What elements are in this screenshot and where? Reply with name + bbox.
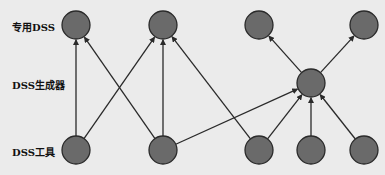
node-bot4: [297, 136, 325, 164]
node-top3: [245, 11, 273, 39]
edge-arrow: [176, 89, 298, 144]
nodes-group: [62, 11, 378, 164]
node-bot1: [62, 136, 90, 164]
label-specific-dss: 专用DSS: [12, 19, 55, 34]
edge-arrow: [269, 36, 302, 72]
edge-arrow: [268, 95, 302, 139]
node-bot5: [350, 136, 378, 164]
edge-arrow: [172, 37, 250, 139]
edge-arrow: [320, 36, 353, 73]
node-bot2: [149, 136, 177, 164]
node-top4: [350, 11, 378, 39]
node-mid1: [297, 69, 325, 97]
node-bot3: [245, 136, 273, 164]
edge-arrow: [320, 95, 355, 139]
node-top1: [62, 11, 90, 39]
label-dss-tools: DSS工具: [12, 144, 55, 159]
label-dss-generator: DSS生成器: [12, 77, 65, 92]
node-top2: [149, 11, 177, 39]
